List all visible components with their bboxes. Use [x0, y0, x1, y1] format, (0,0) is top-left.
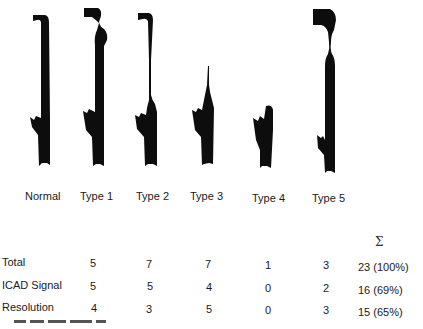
vessel-normal-icon — [30, 15, 50, 166]
cell-type1: 5 — [147, 280, 153, 292]
carotid-morphology-figure: Normal Type 1 Type 2 Type 3 Type 4 Type … — [0, 0, 423, 180]
cell-type4: 3 — [323, 304, 329, 316]
vessel-type1-icon — [83, 8, 107, 166]
row-label: ICAD Signal — [2, 279, 62, 291]
cell-type4: 2 — [323, 282, 329, 294]
sum-header: Σ — [375, 235, 383, 249]
cell-normal: 5 — [90, 257, 96, 269]
vessel-type4-icon — [253, 106, 273, 169]
type-label-type1: Type 1 — [80, 190, 113, 202]
vessel-type5-icon — [313, 9, 336, 173]
type-label-type4: Type 4 — [252, 192, 285, 204]
row-sum: 23 (100%) — [358, 261, 409, 273]
type-label-type2: Type 2 — [136, 190, 169, 202]
row-sum: 16 (69%) — [358, 284, 403, 296]
row-label: Total — [2, 256, 25, 268]
cell-type2: 5 — [206, 303, 212, 315]
cell-type3: 0 — [265, 282, 271, 294]
cell-type2: 4 — [206, 281, 212, 293]
vessel-type2-icon — [135, 13, 157, 166]
cell-type1: 7 — [146, 258, 152, 270]
cell-type3: 1 — [265, 259, 271, 271]
row-sum: 15 (65%) — [358, 306, 403, 318]
cell-type4: 3 — [323, 259, 329, 271]
cell-type2: 7 — [205, 258, 211, 270]
row-label: Resolution — [2, 301, 54, 313]
vessel-type3-icon — [192, 66, 214, 165]
type-label-type3: Type 3 — [190, 190, 223, 202]
cell-type1: 3 — [146, 303, 152, 315]
vessel-silhouettes — [0, 0, 423, 180]
figure-caption-cropped — [14, 318, 154, 324]
type-label-type5: Type 5 — [312, 192, 345, 204]
cell-normal: 4 — [91, 302, 97, 314]
cell-type3: 0 — [265, 304, 271, 316]
cell-normal: 5 — [90, 280, 96, 292]
type-label-normal: Normal — [25, 190, 60, 202]
